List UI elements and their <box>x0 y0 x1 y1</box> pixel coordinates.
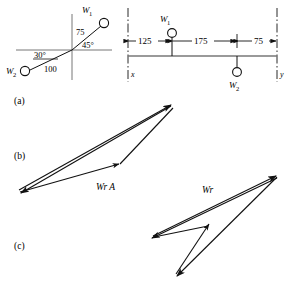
vector-polygon-c: Wr <box>152 176 277 276</box>
mass-circle-w2 <box>20 66 29 75</box>
shaft-label-w2-subscript: 2 <box>236 85 239 92</box>
shaft-label-w1-subscript: 1 <box>167 19 170 26</box>
vector-c-label: Wr <box>202 185 213 195</box>
polar-angle-w1: 45° <box>82 40 94 50</box>
polar-label-w2-subscript: 2 <box>13 71 16 78</box>
dimension-value-125: 125 <box>138 36 152 46</box>
shaft-diagram: 125 175 75 W 1 W 2 x y <box>128 8 284 92</box>
bearing-label-y: y <box>279 70 284 79</box>
vector-polygon-b: Wr A <box>19 105 173 193</box>
bearing-label-x: x <box>130 70 135 79</box>
polar-angle-w2: 30° <box>34 50 46 60</box>
shaft-mass-circle-w2 <box>233 68 242 77</box>
panel-label-c: (c) <box>14 241 25 252</box>
polar-magnitude-w2: 100 <box>44 64 57 74</box>
panel-label-a: (a) <box>14 96 25 107</box>
polar-diagram: W 1 75 45° W 2 30° 100 <box>6 5 112 80</box>
figure-root: W 1 75 45° W 2 30° 100 125 175 75 <box>0 0 288 286</box>
vector-b-label: Wr A <box>96 182 115 192</box>
shaft-mass-circle-w1 <box>168 29 177 38</box>
vector-c-leg-down <box>177 177 277 276</box>
polar-magnitude-w1: 75 <box>76 27 85 37</box>
vector-b-closing-return <box>21 106 171 193</box>
polar-label-w1-subscript: 1 <box>89 10 92 17</box>
vector-c-resultant <box>153 176 276 236</box>
engineering-figure-svg: W 1 75 45° W 2 30° 100 125 175 75 <box>0 0 288 286</box>
vector-b-leg-2 <box>120 108 173 164</box>
panel-label-b: (b) <box>14 151 25 162</box>
mass-circle-w1 <box>99 18 108 27</box>
dimension-value-75: 75 <box>254 36 264 46</box>
vector-b-resultant <box>19 105 171 190</box>
dimension-value-175: 175 <box>194 36 208 46</box>
vector-c-leg-return <box>152 178 277 238</box>
